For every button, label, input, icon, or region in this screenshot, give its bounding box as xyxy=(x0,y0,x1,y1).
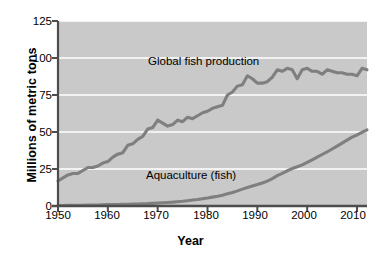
x-tick-label: 1980 xyxy=(181,210,231,222)
x-tick-label: 2000 xyxy=(279,210,329,222)
x-tick-label: 1970 xyxy=(131,210,181,222)
x-tick-label: 1960 xyxy=(82,210,132,222)
chart-figure: 125 100 75 50 25 0 1950 1960 1970 1980 1… xyxy=(0,0,381,255)
series-label-global-fish-production: Global fish production xyxy=(148,56,259,68)
series-label-aquaculture: Aquaculture (fish) xyxy=(146,170,236,182)
x-tick-label: 2010 xyxy=(328,210,378,222)
x-tick-label: 1990 xyxy=(230,210,280,222)
x-tick-label: 1950 xyxy=(33,210,83,222)
y-axis-title: Millions of metric tons xyxy=(25,20,39,210)
x-axis-title: Year xyxy=(0,234,381,248)
